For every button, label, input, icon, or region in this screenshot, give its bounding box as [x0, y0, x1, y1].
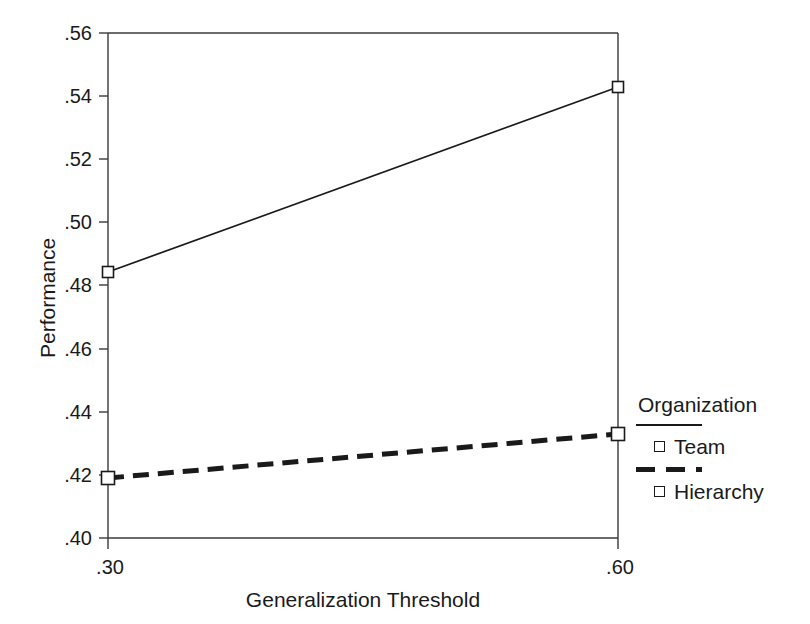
legend-entry-hierarchy[interactable]: Hierarchy: [654, 480, 808, 503]
series-hierarchy: [102, 428, 625, 485]
series-hierarchy-marker: [612, 428, 625, 441]
dashed-line-icon: [636, 467, 702, 472]
series-team-marker: [613, 82, 624, 93]
plot-canvas: [0, 0, 810, 624]
legend-label-team: Team: [674, 435, 725, 458]
x-axis-title: Generalization Threshold: [246, 588, 480, 612]
x-axis-ticks: [108, 538, 618, 549]
y-axis-title: Performance: [36, 238, 60, 358]
open-square-icon: [654, 441, 665, 452]
plot-frame: [108, 33, 618, 538]
legend-entry-team[interactable]: Team: [654, 435, 808, 458]
series-hierarchy-line: [108, 434, 618, 478]
legend-sample-dashed: [636, 462, 808, 478]
series-team-marker: [103, 267, 114, 278]
legend-label-hierarchy: Hierarchy: [674, 480, 764, 503]
y-tick-label-0.42: .42: [54, 465, 92, 485]
legend-sample-solid: [636, 417, 808, 433]
y-tick-label-0.40: .40: [54, 528, 92, 548]
x-tick-label-0.30: .30: [96, 557, 124, 577]
legend-title: Organization: [638, 393, 808, 417]
series-team: [103, 82, 624, 278]
y-tick-label-0.44: .44: [54, 402, 92, 422]
x-tick-label-0.60: .60: [606, 557, 634, 577]
series-hierarchy-marker: [102, 472, 115, 485]
open-square-icon: [654, 486, 665, 497]
y-tick-label-0.54: .54: [54, 86, 92, 106]
legend: Organization Team Hierarchy: [636, 393, 808, 507]
y-axis-ticks: [99, 33, 108, 538]
solid-line-icon: [636, 424, 702, 426]
series-team-line: [108, 87, 618, 272]
y-tick-label-0.50: .50: [54, 212, 92, 232]
y-tick-label-0.52: .52: [54, 149, 92, 169]
y-tick-label-0.56: .56: [54, 23, 92, 43]
line-chart: .56 .54 .52 .50 .48 .46 .44 .42 .40 .30 …: [0, 0, 810, 624]
